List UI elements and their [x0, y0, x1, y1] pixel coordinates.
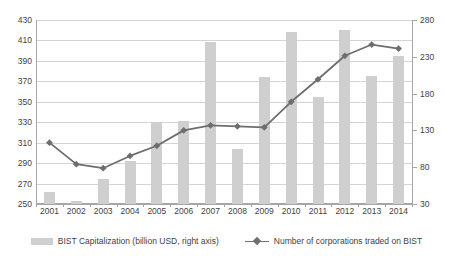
line-marker: [100, 165, 107, 172]
right-axis-tick-label: 80: [420, 163, 450, 172]
x-axis-tick-label: 2004: [121, 206, 140, 216]
legend-label-bist-capitalization: BIST Capitalization (billion USD, right …: [58, 236, 219, 246]
left-axis-tick-label: 270: [0, 180, 32, 189]
x-axis-tick-label: 2012: [335, 206, 354, 216]
x-axis-tick-label: 2002: [67, 206, 86, 216]
right-axis-tick-label: 130: [420, 126, 450, 135]
right-axis-tick-label: 30: [420, 200, 450, 209]
x-axis-tick-label: 2005: [147, 206, 166, 216]
line-path: [49, 45, 398, 169]
chart-legend: BIST Capitalization (billion USD, right …: [0, 232, 453, 250]
legend-item-bist-capitalization: BIST Capitalization (billion USD, right …: [31, 236, 219, 246]
left-axis-tick-label: 350: [0, 98, 32, 107]
right-axis-tick-label: 180: [420, 90, 450, 99]
x-axis-tick-label: 2010: [282, 206, 301, 216]
left-axis-tick-label: 370: [0, 77, 32, 86]
right-axis-tick: [412, 57, 417, 58]
line-marker: [234, 123, 241, 130]
legend-item-number-of-corporations: Number of corporations traded on BIST: [245, 236, 422, 246]
line-marker: [207, 122, 214, 129]
line-marker: [127, 153, 134, 160]
right-axis-tick-label: 280: [420, 16, 450, 25]
x-axis-tick-label: 2008: [228, 206, 247, 216]
x-axis-tick-label: 2014: [389, 206, 408, 216]
left-axis-tick-label: 310: [0, 139, 32, 148]
x-axis-tick-label: 2013: [362, 206, 381, 216]
x-axis-tick-label: 2011: [309, 206, 327, 216]
x-axis-tick-label: 2007: [201, 206, 220, 216]
line-series: [36, 20, 412, 204]
right-axis-line: [412, 20, 413, 204]
x-axis-tick-label: 2006: [174, 206, 193, 216]
x-axis-tick: [412, 204, 413, 207]
line-marker: [368, 41, 375, 48]
left-axis-tick-label: 250: [0, 200, 32, 209]
right-axis-tick: [412, 130, 417, 131]
left-axis-tick-label: 430: [0, 16, 32, 25]
right-axis-tick: [412, 167, 417, 168]
left-axis-tick-label: 410: [0, 36, 32, 45]
legend-label-number-of-corporations: Number of corporations traded on BIST: [274, 236, 422, 246]
x-axis-tick-label: 2001: [40, 206, 59, 216]
right-axis-tick: [412, 20, 417, 21]
chart-container: 250270290310330350370390410430 308013018…: [0, 0, 453, 256]
left-axis-tick-label: 390: [0, 57, 32, 66]
legend-bar-swatch-icon: [31, 238, 53, 245]
line-marker: [395, 45, 402, 52]
right-axis-tick: [412, 94, 417, 95]
left-axis-tick-label: 290: [0, 159, 32, 168]
right-axis-tick-label: 230: [420, 53, 450, 62]
x-axis-labels: 2001200220032004200520062007200820092010…: [36, 206, 412, 220]
x-axis-tick-label: 2009: [255, 206, 274, 216]
legend-line-diamond-swatch-icon: [245, 237, 269, 246]
x-axis-tick-label: 2003: [94, 206, 113, 216]
left-axis-tick-label: 330: [0, 118, 32, 127]
